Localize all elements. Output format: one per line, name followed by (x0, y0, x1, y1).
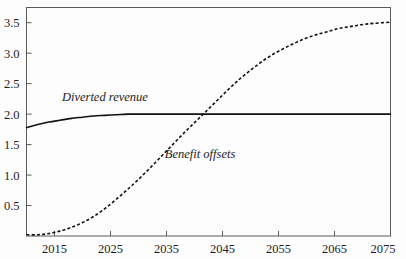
series-line-benefit-offsets (27, 22, 391, 235)
y-axis-tickmarks (27, 23, 32, 206)
series-label-benefit-offsets: Benefit offsets (165, 147, 236, 161)
x-tick-label-2045: 2045 (210, 242, 235, 256)
series-line-diverted-revenue (27, 114, 391, 127)
y-tick-label-3.5: 3.5 (4, 16, 20, 30)
y-axis-tick-labels: 0.51.01.52.02.53.03.5 (4, 16, 20, 213)
chart-svg: 0.51.01.52.02.53.03.5 201520252035204520… (0, 0, 406, 259)
plot-frame-rect (27, 8, 391, 237)
y-tick-label-1.0: 1.0 (4, 169, 20, 183)
x-axis-tick-labels: 2015202520352045205520652075 (42, 242, 396, 256)
y-tick-label-2.0: 2.0 (4, 108, 20, 122)
series-annotation-labels: Diverted revenueBenefit offsets (61, 90, 236, 161)
x-tick-label-2025: 2025 (98, 242, 123, 256)
y-tick-label-2.5: 2.5 (4, 77, 20, 91)
y-tick-label-1.5: 1.5 (4, 138, 20, 152)
x-tick-label-2015: 2015 (42, 242, 67, 256)
y-tick-label-3.0: 3.0 (4, 47, 20, 61)
x-axis-tickmarks (55, 231, 391, 236)
x-tick-label-2035: 2035 (154, 242, 179, 256)
data-series-group (27, 22, 391, 235)
series-label-diverted-revenue: Diverted revenue (61, 90, 148, 104)
y-tick-label-0.5: 0.5 (4, 199, 20, 213)
chart-container: 0.51.01.52.02.53.03.5 201520252035204520… (0, 0, 406, 259)
x-tick-label-2075: 2075 (371, 242, 396, 256)
x-tick-label-2065: 2065 (322, 242, 347, 256)
plot-frame (27, 8, 391, 237)
x-tick-label-2055: 2055 (266, 242, 291, 256)
